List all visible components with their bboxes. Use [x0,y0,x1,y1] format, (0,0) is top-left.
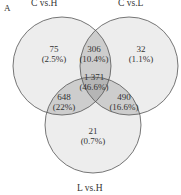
region-all: 1 371 (46.6%) [74,72,114,92]
set-label-l-vs-h: L vs.H [77,183,103,193]
region-count: 32 [123,44,159,54]
region-cl-lh: 490 (16.6%) [104,92,144,112]
region-percent: (16.6%) [104,102,144,112]
region-percent: (46.6%) [74,82,114,92]
set-label-c-vs-h: C vs.H [31,0,57,8]
region-c-l-only: 32 (1.1%) [123,44,159,64]
venn-diagram [0,0,181,195]
region-percent: (2.5%) [36,54,72,64]
panel-label: A [4,3,11,13]
region-count: 490 [104,92,144,102]
region-percent: (22%) [46,102,82,112]
region-ch-cl: 306 (10.4%) [74,44,114,64]
region-count: 75 [36,44,72,54]
region-l-h-only: 21 (0.7%) [75,126,111,146]
region-percent: (1.1%) [123,54,159,64]
region-count: 648 [46,92,82,102]
region-percent: (10.4%) [74,54,114,64]
region-count: 1 371 [74,72,114,82]
region-count: 21 [75,126,111,136]
region-count: 306 [74,44,114,54]
region-ch-lh: 648 (22%) [46,92,82,112]
region-percent: (0.7%) [75,136,111,146]
region-c-h-only: 75 (2.5%) [36,44,72,64]
set-label-c-vs-l: C vs.L [118,0,143,8]
